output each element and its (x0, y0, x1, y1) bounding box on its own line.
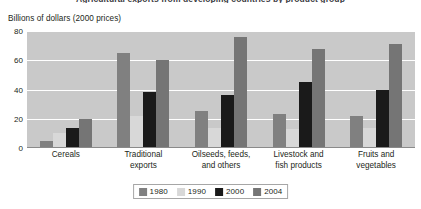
plot-area: 020406080 (27, 31, 415, 148)
bar (234, 37, 247, 148)
bar (208, 128, 221, 148)
legend-swatch-icon (253, 188, 261, 196)
cut-off-headline: Agricultural exports from developing cou… (0, 0, 421, 3)
bar (130, 116, 143, 148)
bar (66, 128, 79, 148)
chart-legend: 1980199020002004 (133, 184, 289, 199)
bar-group (105, 31, 183, 148)
bar (195, 111, 208, 148)
x-tick-label: Traditionalexports (105, 150, 183, 171)
bar (221, 95, 234, 148)
x-tick-label: Fruits andvegetables (337, 150, 415, 171)
legend-label: 1990 (188, 187, 206, 196)
x-tick-label: Livestock andfish products (260, 150, 338, 171)
legend-item[interactable]: 2004 (253, 187, 282, 196)
bar (79, 119, 92, 148)
bar (389, 44, 402, 148)
legend-swatch-icon (139, 188, 147, 196)
legend-item[interactable]: 1990 (177, 187, 206, 196)
x-axis-line (27, 147, 415, 148)
y-tick-label: 0 (19, 144, 23, 153)
legend-label: 2000 (226, 187, 244, 196)
bar (363, 128, 376, 148)
x-tick-label: Cereals (27, 150, 105, 171)
bar-group (337, 31, 415, 148)
y-tick-label: 80 (14, 27, 23, 36)
legend-item[interactable]: 1980 (139, 187, 168, 196)
bar-group (182, 31, 260, 148)
y-axis-title: Billions of dollars (2000 prices) (8, 14, 121, 23)
bar (376, 90, 389, 149)
x-axis-labels: CerealsTraditionalexportsOilseeds, feeds… (27, 150, 415, 171)
x-tick-label: Oilseeds, feeds,and others (182, 150, 260, 171)
bar (286, 129, 299, 148)
legend-label: 2004 (264, 187, 282, 196)
bar-group (27, 31, 105, 148)
y-tick-label: 40 (14, 85, 23, 94)
legend-swatch-icon (215, 188, 223, 196)
bar (299, 82, 312, 148)
legend-item[interactable]: 2000 (215, 187, 244, 196)
bar (350, 116, 363, 148)
y-tick-label: 60 (14, 56, 23, 65)
bar-group (260, 31, 338, 148)
bar (53, 133, 66, 148)
bar (143, 92, 156, 148)
bar (156, 60, 169, 148)
legend-swatch-icon (177, 188, 185, 196)
chart-figure: Agricultural exports from developing cou… (0, 0, 421, 209)
bar (117, 53, 130, 148)
bar-groups (27, 31, 415, 148)
y-tick-label: 20 (14, 114, 23, 123)
bar (273, 114, 286, 148)
bar (312, 49, 325, 148)
legend-label: 1980 (150, 187, 168, 196)
